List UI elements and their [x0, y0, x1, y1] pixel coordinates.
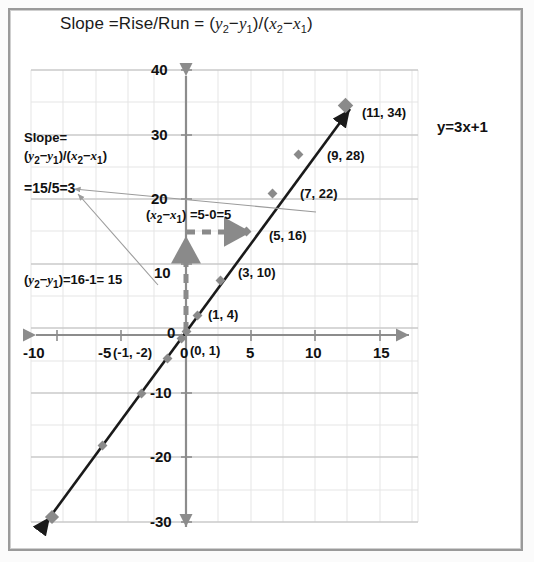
point-label-7-22: (7, 22)	[300, 186, 338, 201]
grid-minor	[31, 70, 418, 522]
point-label-5-16: (5, 16)	[269, 228, 307, 243]
y-tick-label-10: 10	[154, 264, 171, 281]
y-tick-label-30: 30	[151, 126, 168, 143]
point-label-0-1: (0, 1)	[190, 343, 220, 358]
slope-result: =15/5=3	[24, 180, 75, 196]
equation-label: y=3x+1	[437, 118, 488, 135]
x-tick-label--10: -10	[23, 344, 45, 361]
point-label-3-10: (3, 10)	[238, 265, 276, 280]
x-tick-label--5: -5	[98, 344, 111, 361]
point-label-9-28: (9, 28)	[327, 148, 365, 163]
y-tick-label--10: -10	[150, 384, 172, 401]
figure-root: Slope =Rise/Run = (y2−y1)/(x2−x1)	[0, 0, 534, 562]
y-tick-label--30: -30	[150, 513, 172, 530]
axis-x	[36, 330, 409, 341]
rise-annotation: (y2−y1)=16-1= 15	[24, 272, 122, 290]
function-line	[50, 109, 350, 517]
slope-formula: (y2−y1)/(x2−x1)	[24, 148, 107, 166]
x-tick-label-15: 15	[373, 344, 390, 361]
point-label--1--2: (-1, -2)	[113, 345, 152, 360]
x-tick-label-0: 0	[180, 344, 188, 361]
x-tick-label-5: 5	[246, 344, 254, 361]
y-tick-label-0: 0	[167, 324, 175, 341]
slope-heading: Slope=	[24, 130, 67, 145]
run-annotation: (x2−x1) =5-0=5	[146, 207, 231, 225]
point-label-11-34: (11, 34)	[362, 105, 406, 120]
y-tick-label-20: 20	[151, 190, 168, 207]
x-tick-label-10: 10	[305, 344, 322, 361]
y-tick-label-40: 40	[151, 61, 168, 78]
point-label-1-4: (1, 4)	[208, 307, 238, 322]
y-tick-label--20: -20	[150, 448, 172, 465]
